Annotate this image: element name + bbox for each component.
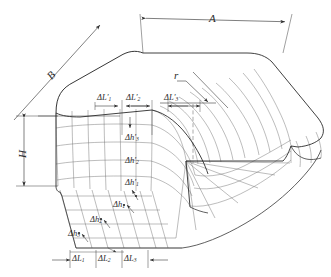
wall-increment-label-1: Δh′1 [125,178,139,188]
bottom-increment-label-1: ΔL1 [72,254,85,264]
dimension-label-r: r [174,70,178,81]
top-increment-sub-3: 3 [176,96,179,102]
bottom-increment-base-3: ΔL [124,253,134,263]
mesh-corner-wall [151,69,291,206]
flange-point-base-3: Δh [68,228,77,238]
wall-increment-label-2: Δh′2 [125,156,139,166]
dimension-label-H: H [17,150,28,158]
flange-point-base-1: Δh [113,199,122,209]
flange-point-label-2: Δh2 [90,215,102,225]
dimension-label-A: A [209,13,216,24]
mesh-flange-radial [176,140,291,238]
wall-increment-base-1: Δh [125,177,134,187]
flange-point-sub-1: 1 [122,203,125,209]
top-increment-label-3: ΔL′3 [164,93,178,103]
top-increment-sub-2: 2 [138,96,141,102]
dimension-line-top-increments [95,100,200,135]
wall-increment-sub-3: 3 [136,136,139,142]
top-increment-label-1: ΔL′1 [97,93,111,103]
diagram-canvas: A B H r ΔL′1 ΔL′2 ΔL′3 Δh′3 Δh′2 Δh′1 Δh… [0,0,331,277]
top-increment-base-2: ΔL [126,92,136,102]
bottom-increment-sub-1: 1 [82,257,85,263]
top-increment-label-2: ΔL′2 [126,93,140,103]
bottom-increment-sub-3: 3 [134,257,137,263]
top-increment-sub-1: 1 [109,96,112,102]
bottom-increment-label-3: ΔL3 [124,254,137,264]
top-increment-base-3: ΔL [164,92,174,102]
body-outline [56,51,323,207]
wall-increment-sub-2: 2 [136,159,139,165]
bottom-increment-label-2: ΔL2 [98,254,111,264]
flange-point-base-2: Δh [90,214,99,224]
flange-point-markers [78,195,137,234]
bottom-increment-base-1: ΔL [72,253,82,263]
flange-point-label-1: Δh1 [113,200,125,210]
wall-increment-label-3: Δh′3 [125,133,139,143]
wall-increment-sub-1: 1 [136,181,139,187]
mesh-flange-right [291,132,321,167]
flange-point-label-3: Δh3 [68,229,80,239]
top-increment-base-1: ΔL [97,92,107,102]
bottom-increment-sub-2: 2 [108,257,111,263]
dimension-line-A [140,14,292,53]
bottom-increment-base-2: ΔL [98,253,108,263]
diagram-vector-layer [0,0,331,277]
wall-increment-base-2: Δh [125,155,134,165]
flange-point-sub-3: 3 [77,232,80,238]
flange-point-sub-2: 2 [99,218,102,224]
wall-increment-base-3: Δh [125,132,134,142]
